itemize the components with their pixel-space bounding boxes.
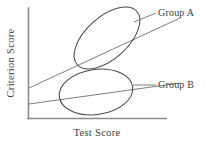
chart-figure: Group A Group B Test Score Criterion Sco… <box>0 0 206 142</box>
chart-canvas: Group A Group B Test Score Criterion Sco… <box>0 0 206 142</box>
regression-line-group-a <box>29 18 180 88</box>
annotation-label-group-a: Group A <box>158 7 195 18</box>
y-axis-title: Criterion Score <box>5 28 16 97</box>
leader-line-group-a <box>134 13 156 22</box>
x-axis-title: Test Score <box>74 127 121 138</box>
annotation-label-group-b: Group B <box>158 79 194 90</box>
cluster-ellipse-group-a <box>63 0 151 80</box>
cluster-ellipse-group-b <box>56 65 136 120</box>
